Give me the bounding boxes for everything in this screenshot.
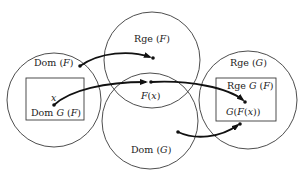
gfx-label: G(F(x)) xyxy=(226,106,260,117)
x-to-fx-arrow xyxy=(54,82,146,105)
gfx-point xyxy=(243,100,247,104)
dom-g-point xyxy=(176,130,180,134)
function-composition-diagram: Dom (F) Rge (F) Dom (G) Rge (G) Dom G (F… xyxy=(0,0,300,179)
dom-f-point xyxy=(78,64,82,68)
rge-g-label: Rge (G) xyxy=(230,57,267,68)
rge-g-point xyxy=(238,122,242,126)
dom-gf-label: Dom G (F) xyxy=(31,107,81,118)
dom-g-label: Dom (G) xyxy=(131,144,171,155)
rge-f-point xyxy=(151,56,155,60)
rge-gf-label: Rge G (F) xyxy=(227,80,274,91)
x-point xyxy=(52,103,56,107)
rge-f-label: Rge (F) xyxy=(134,33,170,44)
fx-label: F(x) xyxy=(140,90,160,101)
fx-point xyxy=(149,80,153,84)
g-map-arrow xyxy=(178,125,238,137)
dom-f-label: Dom (F) xyxy=(34,57,73,68)
f-map-arrow xyxy=(80,53,150,66)
x-label: x xyxy=(51,92,57,103)
